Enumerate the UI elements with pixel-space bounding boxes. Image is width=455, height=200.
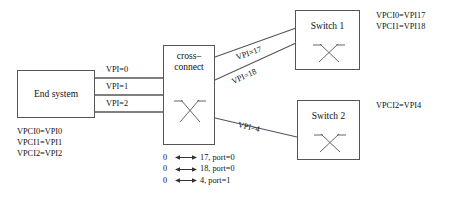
node-switch-2[interactable]: Switch 2	[297, 100, 360, 160]
double-arrow-icon	[175, 165, 197, 174]
switch-1-mapping-0: VPCI0=VPI17	[376, 10, 425, 21]
legend-row: 0 18, port=0	[163, 163, 235, 174]
legend-row: 0 4, port=1	[163, 175, 235, 186]
link-label-vpi2: VPI=2	[106, 99, 128, 109]
end-system-mapping-2: VPCI2=VPI2	[17, 148, 62, 159]
cross-connect-switch-icon	[172, 96, 208, 126]
legend-from-value: 0	[163, 163, 172, 174]
double-arrow-icon	[175, 176, 197, 185]
end-system-mapping-1: VPCI1=VPI1	[17, 137, 62, 148]
node-switch-1-label: Switch 1	[296, 21, 359, 32]
node-end-system-label: End system	[18, 89, 94, 100]
switch-1-mappings: VPCI0=VPI17 VPCI1=VPI18	[376, 10, 425, 32]
double-arrow-icon	[175, 153, 197, 162]
switch-1-switch-icon	[311, 41, 347, 65]
node-cross-connect[interactable]: cross– connect	[163, 45, 215, 145]
node-switch-1[interactable]: Switch 1	[295, 10, 360, 70]
link-label-vpi1: VPI=1	[106, 82, 128, 92]
switch-2-switch-icon	[312, 131, 348, 155]
legend-from-value: 0	[163, 175, 172, 186]
legend-from-value: 0	[163, 152, 172, 163]
legend-to-value: 18, port=0	[200, 163, 235, 174]
cross-connect-mapping-legend: 0 17, port=0 0 18, port=0	[163, 152, 235, 186]
node-end-system[interactable]: End system	[17, 70, 95, 118]
diagram-canvas: End system cross– connect Switch 1 Switc…	[0, 0, 455, 200]
legend-to-value: 17, port=0	[200, 152, 235, 163]
end-system-mappings: VPCI0=VPI0 VPCI1=VPI1 VPCI2=VPI2	[17, 126, 62, 160]
node-cross-connect-label: cross– connect	[164, 51, 214, 73]
link-label-vpi0: VPI=0	[106, 65, 128, 75]
end-system-mapping-0: VPCI0=VPI0	[17, 126, 62, 137]
switch-2-mappings: VPCI2=VPI4	[376, 100, 421, 111]
legend-to-value: 4, port=1	[200, 175, 231, 186]
switch-1-mapping-1: VPCI1=VPI18	[376, 21, 425, 32]
node-switch-2-label: Switch 2	[298, 111, 359, 122]
legend-row: 0 17, port=0	[163, 152, 235, 163]
switch-2-mapping-0: VPCI2=VPI4	[376, 100, 421, 111]
